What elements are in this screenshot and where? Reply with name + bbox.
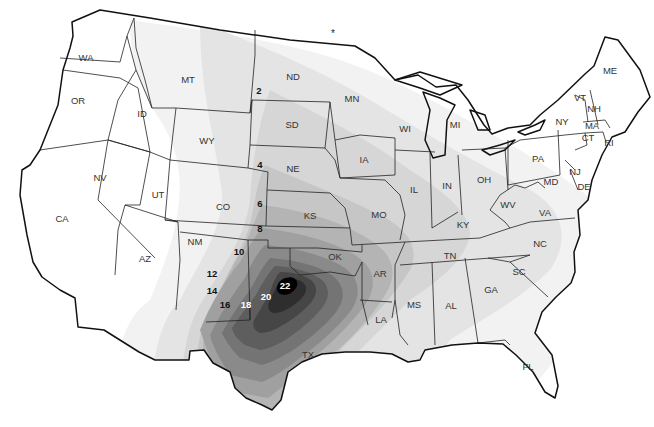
- state-label-ca: CA: [55, 213, 69, 224]
- us-contour-map: * WAORIDMTWYNDSDNEMNIAWIMIILINOHPANYVTNH…: [0, 0, 654, 427]
- state-label-ok: OK: [328, 251, 342, 262]
- state-label-nm: NM: [188, 236, 203, 247]
- state-label-la: LA: [375, 314, 387, 325]
- state-label-il: IL: [410, 184, 418, 195]
- state-label-ut: UT: [152, 189, 165, 200]
- state-label-wv: WV: [500, 199, 516, 210]
- state-label-or: OR: [71, 95, 85, 106]
- state-label-al: AL: [445, 300, 457, 311]
- state-label-mo: MO: [371, 209, 386, 220]
- state-label-nh: NH: [587, 103, 601, 114]
- state-label-ga: GA: [484, 284, 498, 295]
- contour-label-4: 4: [257, 159, 263, 170]
- state-label-mi: MI: [450, 119, 461, 130]
- state-label-ms: MS: [407, 299, 421, 310]
- state-label-nv: NV: [93, 172, 107, 183]
- contour-label-8: 8: [257, 223, 262, 234]
- contour-label-22: 22: [280, 280, 291, 291]
- state-label-mt: MT: [181, 74, 195, 85]
- state-label-ks: KS: [304, 210, 317, 221]
- contour-label-18: 18: [241, 299, 252, 310]
- state-label-ri: RI: [604, 137, 614, 148]
- state-label-tx: TX: [302, 349, 315, 360]
- state-label-wi: WI: [399, 123, 411, 134]
- state-label-pa: PA: [532, 153, 545, 164]
- state-label-sd: SD: [285, 119, 298, 130]
- state-label-id: ID: [137, 108, 147, 119]
- state-label-ma: MA: [585, 120, 600, 131]
- state-label-sc: SC: [512, 266, 525, 277]
- contour-label-14: 14: [207, 285, 218, 296]
- state-label-vt: VT: [574, 92, 586, 103]
- contour-label-10: 10: [234, 246, 245, 257]
- state-label-md: MD: [544, 176, 559, 187]
- contour-label-12: 12: [207, 268, 218, 279]
- contour-label-2: 2: [256, 85, 261, 96]
- state-label-nc: NC: [533, 238, 547, 249]
- state-label-ct: CT: [582, 132, 595, 143]
- state-label-co: CO: [216, 201, 230, 212]
- state-label-de: DE: [577, 181, 590, 192]
- state-label-in: IN: [442, 180, 452, 191]
- state-label-ne: NE: [286, 163, 299, 174]
- asterisk-marker: *: [331, 28, 335, 39]
- state-label-ar: AR: [373, 268, 386, 279]
- state-label-nd: ND: [286, 71, 300, 82]
- state-label-fl: FL: [522, 361, 533, 372]
- state-label-wa: WA: [79, 52, 95, 63]
- state-label-ia: IA: [360, 154, 370, 165]
- state-label-va: VA: [539, 207, 552, 218]
- contour-label-20: 20: [261, 291, 272, 302]
- state-label-wy: WY: [199, 135, 215, 146]
- state-label-oh: OH: [477, 174, 491, 185]
- contour-bands: [0, 0, 654, 427]
- state-label-az: AZ: [139, 253, 151, 264]
- state-label-tn: TN: [444, 250, 457, 261]
- state-label-me: ME: [603, 65, 617, 76]
- state-label-mn: MN: [345, 93, 360, 104]
- state-label-nj: NJ: [569, 166, 581, 177]
- state-label-ny: NY: [555, 116, 569, 127]
- contour-label-6: 6: [257, 198, 262, 209]
- state-label-ky: KY: [457, 219, 470, 230]
- contour-label-16: 16: [220, 299, 231, 310]
